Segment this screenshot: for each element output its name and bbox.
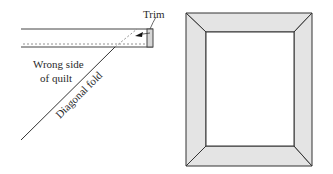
border-bottom xyxy=(186,146,312,166)
quilt-center xyxy=(206,32,294,146)
fold-dashed-line xyxy=(115,29,137,47)
arrow-icon xyxy=(135,32,143,37)
border-left xyxy=(186,13,206,166)
border-right xyxy=(294,13,312,166)
border-top xyxy=(186,13,312,32)
mitered-frame-diagram xyxy=(186,13,312,166)
trim-label: Trim xyxy=(143,8,165,20)
wrong-side-label-line1: Wrong side xyxy=(33,58,84,70)
quilt-binding-diagram: Trim Wrong side of quilt Diagonal fold xyxy=(0,0,333,174)
trim-area xyxy=(147,29,153,47)
wrong-side-label-line2: of quilt xyxy=(40,72,72,84)
binding-strip-diagram: Trim Wrong side of quilt Diagonal fold xyxy=(21,8,165,140)
